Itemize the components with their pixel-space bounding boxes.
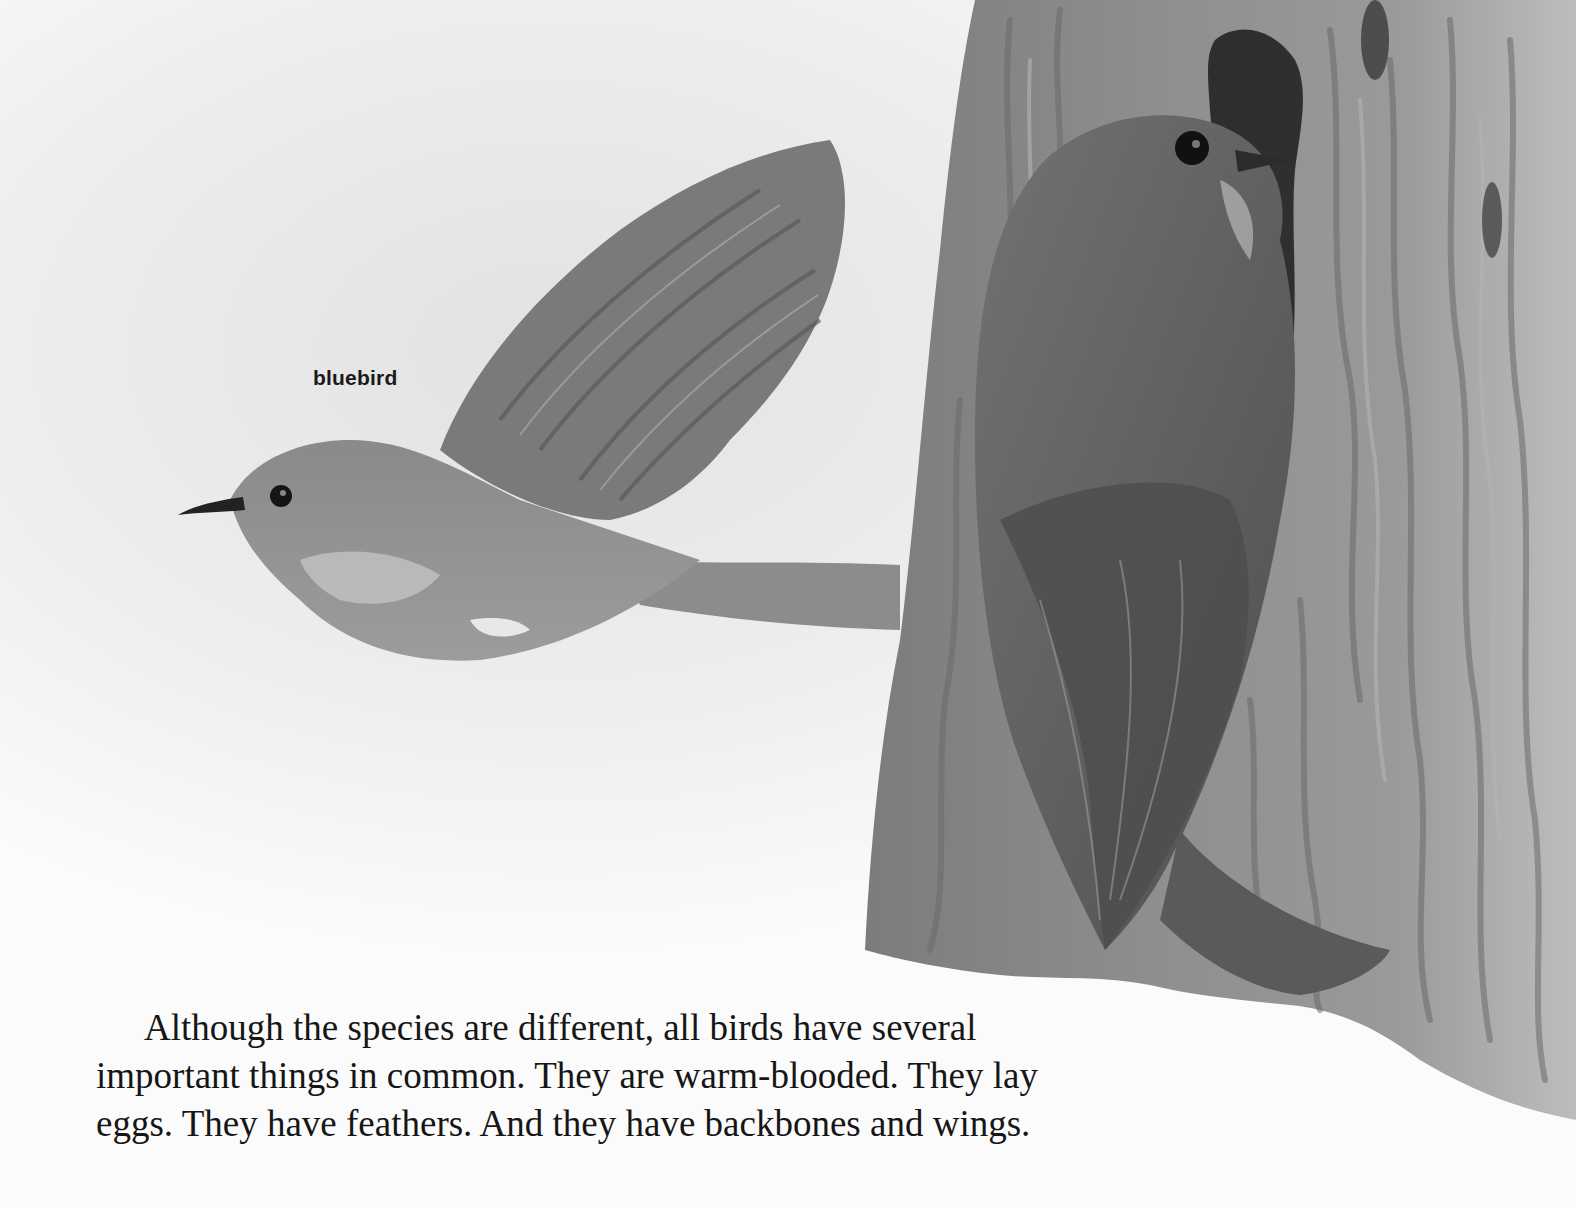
book-page: bluebird Although the species are differ… [0, 0, 1576, 1208]
paragraph-line-3: eggs. They have feathers. And they have … [96, 1100, 1256, 1148]
paragraph-line-1: Although the species are different, all … [96, 1004, 1256, 1052]
paragraph-line-2: important things in common. They are war… [96, 1052, 1256, 1100]
bluebird-label: bluebird [313, 366, 397, 390]
body-paragraph: Although the species are different, all … [96, 1004, 1256, 1148]
